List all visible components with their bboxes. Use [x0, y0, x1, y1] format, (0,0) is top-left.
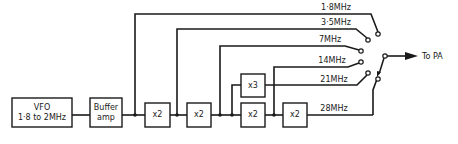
junction-dot [218, 113, 222, 117]
tripler-label: x3 [241, 74, 265, 97]
wire-to-x3 [232, 85, 241, 115]
switch-contact-21mhz [366, 71, 370, 75]
junction-dot [175, 113, 179, 117]
vfo-title: VFO [34, 103, 50, 113]
vfo-block: VFO 1·8 to 2MHz [12, 98, 72, 127]
wire-28mhz-to-switch [373, 79, 377, 115]
buffer-amp-block: Buffer amp [90, 98, 122, 127]
band-label-14mhz: 14MHz [314, 56, 350, 65]
output-label: To PA [422, 52, 443, 61]
band-label-28mhz: 28MHz [316, 104, 352, 113]
band-label-1-8mhz: 1·8MHz [316, 3, 356, 12]
vfo-range: 1·8 to 2MHz [18, 113, 66, 123]
buffer-title: Buffer [94, 103, 118, 113]
switch-wiper-arrow-icon [377, 71, 381, 77]
multiplier-2-label: x2 [187, 103, 211, 127]
multiplier-3-label: x2 [241, 103, 265, 127]
junction-dot [230, 113, 234, 117]
arrow-right-icon [405, 52, 418, 60]
band-label-21mhz: 21MHz [316, 75, 352, 84]
band-label-7mhz: 7MHz [313, 35, 347, 44]
multiplier-1-label: x2 [145, 103, 170, 127]
band-label-3-5mhz: 3·5MHz [316, 18, 356, 27]
switch-contact-3-5mhz [366, 38, 370, 42]
switch-contact-1-8mhz [376, 32, 380, 36]
switch-common-contact [383, 54, 387, 58]
switch-wiper [379, 58, 384, 74]
switch-contact-7mhz [359, 49, 363, 53]
junction-dot [272, 113, 276, 117]
junction-dot [133, 113, 137, 117]
buffer-subtitle: amp [97, 113, 115, 123]
switch-contact-14mhz [359, 60, 363, 64]
multiplier-4-label: x2 [283, 103, 307, 127]
switch-contact-28mhz [376, 77, 380, 81]
